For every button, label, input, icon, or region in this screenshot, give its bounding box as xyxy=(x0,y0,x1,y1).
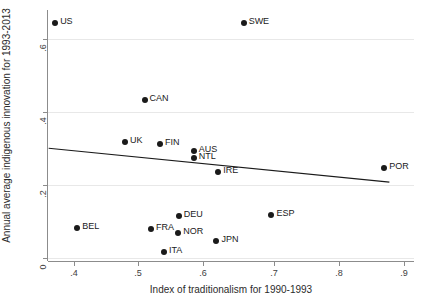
x-tick-label-0.5: .5 xyxy=(126,268,150,278)
y-tick-label-0: 0 xyxy=(38,257,48,277)
x-tick-label-0.7: .7 xyxy=(262,268,286,278)
gridline-0.4 xyxy=(48,112,414,113)
data-point-us xyxy=(52,20,58,26)
data-point-label-can: CAN xyxy=(150,93,169,103)
data-point-bel xyxy=(74,225,80,231)
gridline-0.2 xyxy=(48,185,414,186)
data-point-por xyxy=(381,165,387,171)
data-point-jpn xyxy=(213,238,219,244)
x-tick-label-0.6: .6 xyxy=(191,268,215,278)
x-tick-mark-0.7 xyxy=(274,262,275,266)
data-point-label-bel: BEL xyxy=(82,221,99,231)
data-point-label-swe: SWE xyxy=(249,16,270,26)
data-point-label-nor: NOR xyxy=(183,226,203,236)
plot-area: USSWECANUKFINAUSNTLIREPORDEUBELFRANORESP… xyxy=(48,10,414,261)
x-axis-title: Index of traditionalism for 1990-1993 xyxy=(48,284,414,295)
y-tick-label-0.4: .4 xyxy=(38,111,48,131)
data-point-can xyxy=(142,97,148,103)
data-point-ntl xyxy=(191,155,197,161)
data-point-ire xyxy=(215,169,221,175)
y-tick-label-0.6: .6 xyxy=(38,38,48,58)
data-point-aus xyxy=(191,148,197,154)
gridline-0.6 xyxy=(48,39,414,40)
x-tick-mark-0.8 xyxy=(339,262,340,266)
data-point-deu xyxy=(176,213,182,219)
data-point-swe xyxy=(241,20,247,26)
data-point-label-esp: ESP xyxy=(276,208,294,218)
data-point-label-fin: FIN xyxy=(165,137,180,147)
data-point-label-fra: FRA xyxy=(156,222,174,232)
gridline-0 xyxy=(48,258,414,259)
data-point-fra xyxy=(148,226,154,232)
x-tick-mark-0.6 xyxy=(203,262,204,266)
data-point-label-jpn: JPN xyxy=(221,234,238,244)
data-point-label-ita: ITA xyxy=(169,245,182,255)
data-point-label-ire: IRE xyxy=(223,165,238,175)
scatter-plot-figure: Annual average indigenous innovation for… xyxy=(0,0,424,307)
x-tick-mark-0.5 xyxy=(138,262,139,266)
x-tick-label-0.9: .9 xyxy=(392,268,416,278)
data-point-label-us: US xyxy=(60,16,73,26)
y-tick-label-0.2: .2 xyxy=(38,184,48,204)
x-axis-line xyxy=(48,261,414,262)
x-tick-mark-0.4 xyxy=(74,262,75,266)
data-point-uk xyxy=(122,139,128,145)
x-tick-label-0.8: .8 xyxy=(327,268,351,278)
x-tick-mark-0.9 xyxy=(404,262,405,266)
data-point-label-por: POR xyxy=(389,161,409,171)
data-point-nor xyxy=(175,230,181,236)
data-point-esp xyxy=(268,212,274,218)
data-point-label-uk: UK xyxy=(130,135,143,145)
data-point-fin xyxy=(157,141,163,147)
data-point-label-ntl: NTL xyxy=(199,151,216,161)
data-point-label-deu: DEU xyxy=(184,209,203,219)
y-axis-title: Annual average indigenous innovation for… xyxy=(0,0,14,251)
x-tick-label-0.4: .4 xyxy=(62,268,86,278)
data-point-ita xyxy=(161,249,167,255)
